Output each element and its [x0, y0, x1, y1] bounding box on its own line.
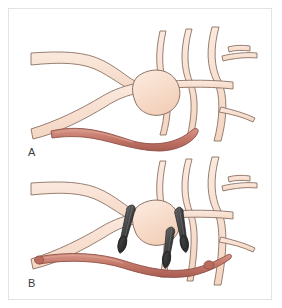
parent-artery-branches-a: [31, 52, 139, 139]
proximal-anastomosis: [35, 256, 44, 264]
panel-b: [9, 155, 271, 299]
distal-anastomosis: [204, 261, 214, 269]
figure-container: A: [0, 0, 282, 308]
panel-b-label: B: [28, 278, 36, 289]
panel-a: [9, 9, 271, 153]
bypass-graft-vessel-b: [35, 254, 232, 278]
aneurysm-dome-a: [133, 70, 180, 115]
bypass-graft-vessel-a: [51, 128, 198, 151]
